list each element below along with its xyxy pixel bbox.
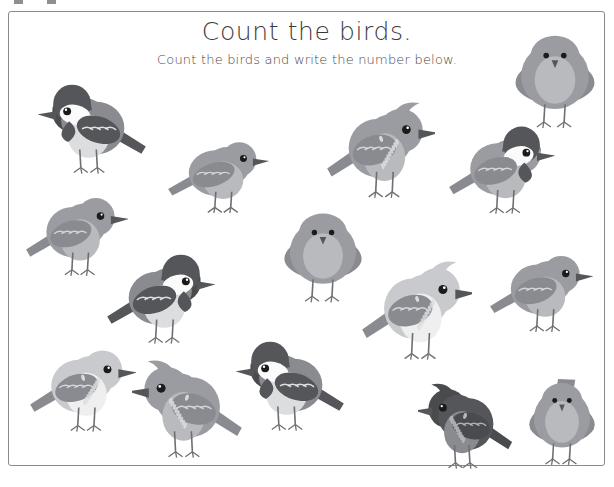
crop-marks [0,0,614,8]
bird-robin-side-right-far [488,246,594,332]
worksheet-page: Count the birds. Count the birds and wri… [0,0,614,487]
bird-chickadee-side-left-bottom [236,339,346,431]
bird-bird-front-bottom-right [523,378,601,466]
bird-bird-front-top-right [508,30,602,130]
bird-chickadee-side-right-upper [447,124,555,214]
bird-robin-side-right-upper [166,133,272,213]
bird-speckled-side-right-bottom [28,340,136,432]
bird-bird-front-center [277,208,369,304]
bird-cardinal-crested-left [132,355,244,459]
bird-crested-light-right [360,256,472,361]
crop-mark [47,0,56,4]
bird-chickadee-side-left [38,82,148,174]
bird-cardinal-crested-right [325,97,435,199]
bird-chickadee-side-right-mid [105,252,215,344]
bird-cardinal-dark-left [418,379,514,469]
crop-mark [14,0,23,4]
